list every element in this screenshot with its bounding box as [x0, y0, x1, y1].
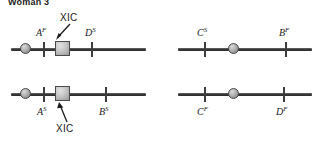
chromosome-arm-line — [11, 48, 146, 51]
allele-superscript: F — [285, 26, 289, 34]
chromosome-top-left: AF DS — [11, 28, 146, 72]
locus-tick-mark — [105, 87, 107, 102]
xic-locus-box — [55, 86, 70, 101]
locus-tick-mark — [91, 42, 93, 57]
xic-label-bottom: XIC — [56, 124, 74, 134]
gene-label-d-s: DS — [85, 28, 96, 38]
allele-superscript: F — [283, 105, 287, 113]
allele-superscript: S — [105, 105, 109, 113]
allele-superscript: S — [92, 26, 96, 34]
chromosome-bottom-right: CF DF — [178, 73, 312, 117]
gene-label-c-f: CF — [197, 107, 208, 117]
centromere-icon — [228, 43, 239, 54]
centromere-icon — [20, 88, 31, 99]
chromosome-arm-line — [178, 48, 312, 51]
xic-locus-box — [55, 41, 70, 56]
gene-label-d-f: DF — [276, 107, 288, 117]
xic-pointer-arrow-top — [52, 22, 74, 42]
xic-pointer-arrow-bottom — [55, 100, 75, 124]
gene-symbol: C — [197, 106, 204, 117]
gene-label-b-f: BF — [279, 28, 289, 38]
allele-superscript: F — [42, 26, 46, 34]
locus-tick-mark — [43, 87, 45, 102]
centromere-icon — [20, 43, 31, 54]
allele-superscript: S — [204, 26, 208, 34]
gene-label-b-s: BS — [99, 107, 109, 117]
gene-label-c-s: CS — [197, 28, 207, 38]
gene-label-a-f: AF — [36, 28, 46, 38]
locus-tick-mark — [283, 87, 285, 102]
centromere-icon — [228, 88, 239, 99]
chromosome-top-right: CS BF — [178, 28, 312, 72]
allele-superscript: F — [204, 105, 208, 113]
gene-symbol: C — [197, 27, 204, 38]
locus-tick-mark — [204, 87, 206, 102]
allele-superscript: S — [43, 105, 47, 113]
chromosome-bottom-left: AS BS — [11, 73, 146, 117]
gene-label-a-s: AS — [37, 107, 47, 117]
chromosome-diagram: Woman 3 AF DS XIC CS BF — [0, 0, 317, 145]
chromosome-arm-line — [11, 93, 146, 96]
chromosome-arm-line — [178, 93, 312, 96]
figure-title: Woman 3 — [8, 0, 49, 6]
locus-tick-mark — [204, 42, 206, 57]
locus-tick-mark — [285, 42, 287, 57]
locus-tick-mark — [43, 42, 45, 57]
